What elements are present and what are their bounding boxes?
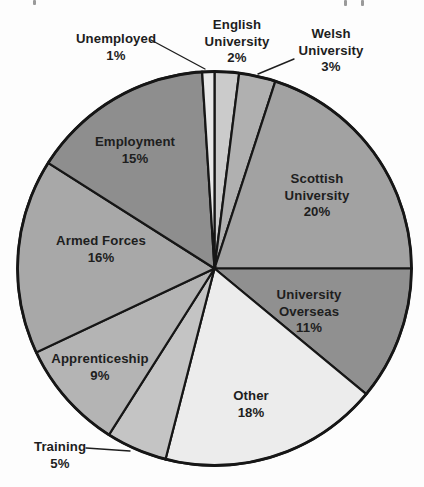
pie-chart-svg bbox=[0, 0, 424, 487]
leader-line-unemployed bbox=[151, 40, 205, 69]
leader-line-welsh-university bbox=[258, 59, 294, 74]
pie-chart: English University 2%Welsh University 3%… bbox=[0, 0, 424, 487]
leader-line-training bbox=[86, 448, 130, 451]
